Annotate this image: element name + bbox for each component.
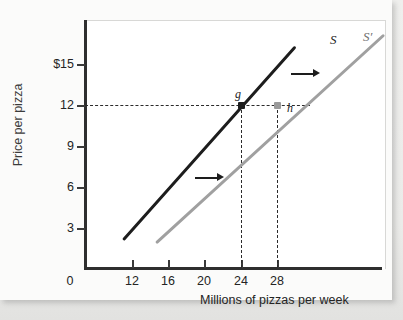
y-tick-12 <box>77 105 85 107</box>
x-tick-label-16: 16 <box>148 275 188 288</box>
quantity-guideline-g-dashed <box>241 105 242 268</box>
data-point-h-label: h <box>287 102 293 114</box>
x-tick-20 <box>204 260 206 268</box>
x-tick-label-12: 12 <box>112 275 152 288</box>
figure-container: $15 12 9 6 3 0 12 16 20 24 28 Price per … <box>0 0 403 320</box>
shift-arrow-lower-head <box>217 173 224 181</box>
x-tick-label-0: 0 <box>50 275 90 288</box>
y-axis-title: Price per pizza <box>11 55 25 195</box>
x-tick-16 <box>168 260 170 268</box>
y-tick-6 <box>77 187 85 189</box>
shift-arrow-lower-line <box>195 177 218 179</box>
x-tick-label-28: 28 <box>257 275 297 288</box>
data-point-h[interactable] <box>274 102 281 109</box>
x-axis-line <box>84 267 382 270</box>
y-axis-line <box>84 20 87 270</box>
y-tick-label-3: 3 <box>0 222 74 235</box>
x-axis-title: Millions of pizzas per week <box>200 293 349 307</box>
y-tick-3 <box>77 228 85 230</box>
y-tick-9 <box>77 146 85 148</box>
x-tick-12 <box>132 260 134 268</box>
shift-arrow-upper-head <box>313 69 320 77</box>
data-point-g-label: g <box>235 88 241 100</box>
x-tick-label-20: 20 <box>184 275 224 288</box>
shift-arrow-upper-line <box>291 73 314 75</box>
y-tick-15 <box>77 64 85 66</box>
figure-card: $15 12 9 6 3 0 12 16 20 24 28 Price per … <box>0 0 392 300</box>
supply-curve-new-label: S′ <box>363 30 372 43</box>
x-tick-label-24: 24 <box>221 275 261 288</box>
data-point-g[interactable] <box>238 102 245 109</box>
supply-curve-original-label: S <box>330 33 337 46</box>
